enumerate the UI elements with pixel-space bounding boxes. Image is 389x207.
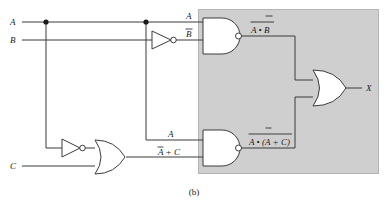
nand-top-body bbox=[203, 18, 240, 54]
inverter-b-bubble-icon bbox=[171, 37, 177, 43]
inverter-b-gate[interactable] bbox=[152, 31, 176, 49]
label-nand-top-in-bbar-text: B bbox=[186, 29, 192, 39]
inverter-a-bubble-icon bbox=[80, 145, 86, 151]
label-or-low-out-text: A + C bbox=[157, 147, 181, 157]
inverter-b-triangle bbox=[152, 31, 171, 49]
label-nand-top-out-text: A • B bbox=[250, 25, 270, 35]
label-nand-bottom-out-text: A • (A + C) bbox=[248, 137, 290, 147]
label-input-c: C bbox=[10, 161, 17, 171]
inverter-a-gate[interactable] bbox=[62, 139, 85, 157]
label-or-low-out: A + C bbox=[157, 147, 181, 157]
or-low-gate[interactable] bbox=[95, 140, 125, 174]
wire-a-branch-to-inverter bbox=[46, 22, 62, 148]
nand-bottom-bubble-icon bbox=[236, 145, 242, 151]
label-input-b: B bbox=[10, 35, 16, 45]
label-nand-bottom-in-a: A bbox=[167, 129, 174, 139]
figure-caption: (b) bbox=[189, 187, 200, 197]
nand-top-bubble-icon bbox=[236, 33, 242, 39]
label-input-a: A bbox=[9, 17, 16, 27]
junction-dot-a1 bbox=[43, 19, 48, 24]
junction-dot-a2 bbox=[143, 19, 148, 24]
figure-container: A B C X A B A A + C A • B A • (A + C) bbox=[0, 0, 389, 207]
logic-circuit-diagram: A B C X A B A A + C A • B A • (A + C) bbox=[0, 0, 389, 207]
nand-bottom-body bbox=[203, 130, 240, 166]
label-nand-top-in-a: A bbox=[185, 11, 192, 21]
label-output-x: X bbox=[365, 83, 372, 93]
or-low-body bbox=[95, 140, 125, 174]
inverter-a-triangle bbox=[62, 139, 80, 157]
label-nand-top-in-bbar: B bbox=[186, 29, 193, 39]
